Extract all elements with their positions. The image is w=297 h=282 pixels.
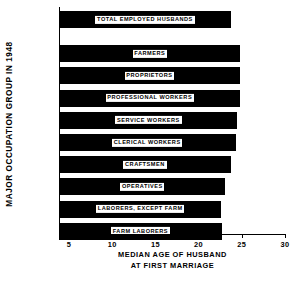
bar-label: SERVICE WORKERS [115,116,181,124]
x-tick [69,234,70,238]
y-axis-title: MAJOR OCCUPATION GROUP IN 1948 [5,41,14,206]
x-tick-label: 15 [151,240,160,249]
bar-label: PROPRIETORS [125,72,175,80]
bar-row: CLERICAL WORKERS [59,134,285,151]
bar-row: SERVICE WORKERS [59,112,285,129]
x-axis-line [59,234,286,235]
x-tick-label: 30 [280,240,289,249]
bar-label: LABORERS, EXCEPT FARM [96,205,184,213]
bar-label: OPERATIVES [120,183,164,191]
bar-row: TOTAL EMPLOYED HUSBANDS [59,11,285,28]
bar-row: FARM LABORERS [59,223,285,240]
x-tick-label: 20 [194,240,203,249]
x-axis-title-line1: MEDIAN AGE OF HUSBAND [118,250,227,259]
x-axis-title: MEDIAN AGE OF HUSBAND AT FIRST MARRIAGE [59,250,286,271]
y-axis-title-container: MAJOR OCCUPATION GROUP IN 1948 [0,18,18,230]
x-axis-title-line2: AT FIRST MARRIAGE [59,261,286,272]
bar-chart-figure: MAJOR OCCUPATION GROUP IN 1948 TOTAL EMP… [0,0,297,282]
x-tick [242,234,243,238]
bar-row: OPERATIVES [59,178,285,195]
bar-row: CRAFTSMEN [59,156,285,173]
bar-row: PROFESSIONAL WORKERS [59,90,285,107]
x-tick [285,234,286,238]
bar-label: CRAFTSMEN [123,161,166,169]
x-tick [199,234,200,238]
bar-row: LABORERS, EXCEPT FARM [59,201,285,218]
bar-row: FARMERS [59,45,285,62]
bar-label: FARMERS [133,50,167,58]
x-tick-label: 10 [108,240,117,249]
bar-label: PROFESSIONAL WORKERS [106,94,194,102]
bar-row: PROPRIETORS [59,67,285,84]
x-tick [112,234,113,238]
x-tick-label: 5 [67,240,72,249]
x-tick [155,234,156,238]
plot-area: TOTAL EMPLOYED HUSBANDSFARMERSPROPRIETOR… [59,7,285,234]
x-tick-label: 25 [237,240,246,249]
bar-label: CLERICAL WORKERS [112,138,183,146]
bar-label: TOTAL EMPLOYED HUSBANDS [95,15,194,23]
